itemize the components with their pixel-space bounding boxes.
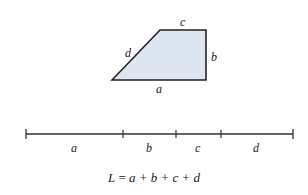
side-label-b: b — [211, 50, 217, 64]
formula-rhs: a + b + c + d — [129, 170, 200, 185]
perimeter-diagram: a b c d a b c d — [0, 0, 308, 195]
segment-label-c: c — [195, 141, 201, 155]
segment-label-a: a — [71, 141, 77, 155]
segment-label-d: d — [253, 141, 260, 155]
side-label-a: a — [156, 82, 162, 96]
number-line — [26, 129, 293, 139]
side-label-c: c — [180, 15, 186, 29]
side-label-d: d — [125, 46, 132, 60]
segment-label-b: b — [146, 141, 152, 155]
perimeter-formula: L = a + b + c + d — [0, 170, 308, 186]
formula-lhs: L — [108, 170, 115, 185]
formula-equals: = — [118, 170, 125, 185]
